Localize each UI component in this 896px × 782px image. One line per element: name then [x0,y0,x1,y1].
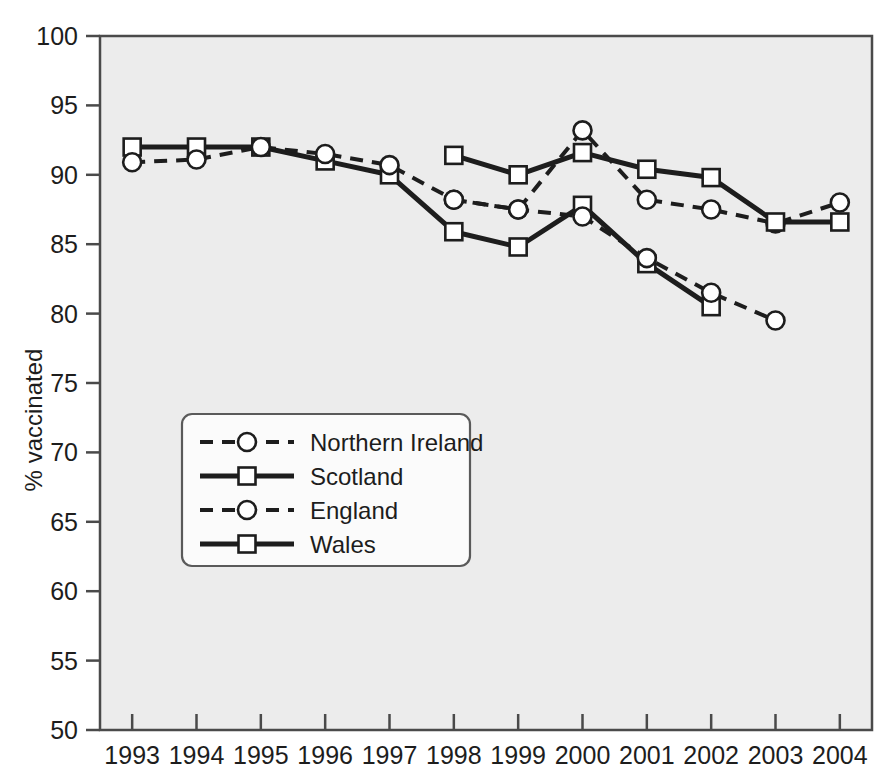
x-tick-label: 2002 [683,741,739,769]
y-tick-label: 85 [50,230,78,258]
legend-item-label: Northern Ireland [310,429,483,456]
y-tick-label: 95 [50,91,78,119]
data-point-marker [381,156,399,174]
data-point-marker [510,238,527,255]
data-point-marker [638,191,656,209]
chart-svg: 50556065707580859095100 1993199419951996… [0,0,896,782]
data-point-marker [509,201,527,219]
data-point-marker [252,138,270,156]
data-point-marker [574,144,591,161]
y-tick-label: 100 [36,22,78,50]
x-tick-label: 1994 [169,741,225,769]
legend-marker-square-icon [239,468,256,485]
x-tick-label: 1995 [233,741,289,769]
data-point-marker [574,207,592,225]
y-tick-label: 60 [50,577,78,605]
y-axis-title: % vaccinated [20,349,47,492]
x-tick-label: 1996 [297,741,353,769]
chart-legend[interactable]: Northern IrelandScotlandEnglandWales [182,414,483,566]
x-tick-label: 1997 [362,741,418,769]
legend-marker-circle-icon [238,501,256,519]
data-point-marker [702,284,720,302]
x-tick-label: 2000 [555,741,611,769]
data-point-marker [316,145,334,163]
legend-item-label: Wales [310,531,376,558]
data-point-marker [123,153,141,171]
x-tick-label: 1993 [104,741,160,769]
x-tick-label: 2004 [812,741,868,769]
data-point-marker [638,161,655,178]
data-point-marker [767,213,784,230]
y-tick-label: 55 [50,647,78,675]
data-point-marker [510,166,527,183]
data-point-marker [445,147,462,164]
data-point-marker [188,151,206,169]
y-tick-label: 75 [50,369,78,397]
y-tick-label: 50 [50,716,78,744]
data-point-marker [702,201,720,219]
x-tick-label: 1999 [490,741,546,769]
y-tick-label: 90 [50,161,78,189]
legend-item-label: Scotland [310,463,403,490]
legend-item-label: England [310,497,398,524]
data-point-marker [703,169,720,186]
y-tick-label: 70 [50,438,78,466]
data-point-marker [445,223,462,240]
x-tick-label: 2001 [619,741,675,769]
data-point-marker [638,249,656,267]
vaccination-line-chart: 50556065707580859095100 1993199419951996… [0,0,896,782]
x-tick-label: 1998 [426,741,482,769]
data-point-marker [767,312,785,330]
y-tick-label: 65 [50,508,78,536]
data-point-marker [445,191,463,209]
legend-marker-square-icon [239,536,256,553]
x-tick-label: 2003 [748,741,804,769]
data-point-marker [574,121,592,139]
legend-marker-circle-icon [238,433,256,451]
data-point-marker [831,194,849,212]
data-point-marker [831,213,848,230]
plot-area-background [100,36,872,730]
y-tick-label: 80 [50,300,78,328]
